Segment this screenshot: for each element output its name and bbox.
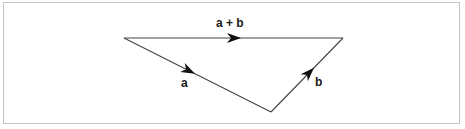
vector-diagram: a + b a b <box>0 0 465 129</box>
vector-sum-label: a + b <box>216 16 244 30</box>
vector-b-label: b <box>315 75 322 89</box>
vector-b-line <box>271 38 343 112</box>
vector-a-line <box>124 38 271 112</box>
vector-a-label: a <box>181 76 188 90</box>
